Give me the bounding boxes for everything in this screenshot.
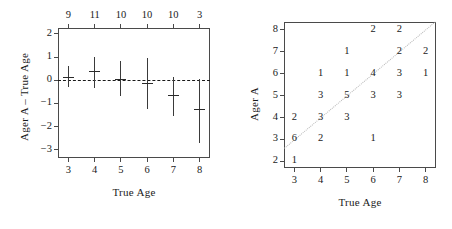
y-tick-label: 6 bbox=[260, 67, 278, 78]
figure-container: 9111010103 345678 210−1−2−3 True Age Age… bbox=[0, 0, 452, 229]
count-cell: 1 bbox=[363, 132, 383, 143]
x-tick-mark bbox=[68, 158, 69, 162]
x-tick-label: 8 bbox=[416, 174, 436, 185]
y-tick-label: −2 bbox=[32, 120, 52, 131]
x-tick-label: 7 bbox=[163, 164, 183, 175]
top-count-label: 3 bbox=[190, 9, 210, 20]
error-bar-mean-marker bbox=[63, 77, 74, 78]
error-bar-mean-marker bbox=[115, 79, 126, 80]
x-tick-mark bbox=[94, 158, 95, 162]
count-cell: 1 bbox=[416, 67, 436, 78]
x-tick-label: 5 bbox=[337, 174, 357, 185]
x-tick-label: 6 bbox=[363, 174, 383, 185]
top-tick-mark bbox=[199, 24, 200, 28]
count-cell: 2 bbox=[311, 132, 331, 143]
y-tick-mark bbox=[280, 29, 284, 30]
top-tick-mark bbox=[173, 24, 174, 28]
panel-left: 9111010103 345678 210−1−2−3 True Age Age… bbox=[0, 0, 226, 229]
x-tick-label: 4 bbox=[311, 174, 331, 185]
count-cell: 2 bbox=[284, 111, 304, 122]
top-count-label: 9 bbox=[58, 9, 78, 20]
top-count-label: 11 bbox=[85, 9, 105, 20]
y-tick-mark bbox=[280, 139, 284, 140]
count-cell: 1 bbox=[337, 45, 357, 56]
y-tick-label: 3 bbox=[260, 132, 278, 143]
right-plot-area bbox=[284, 22, 436, 168]
right-y-axis-title: Ager A bbox=[248, 87, 260, 121]
error-bar-whisker bbox=[94, 57, 95, 88]
left-y-axis-title: Ager A – True Age bbox=[18, 53, 30, 141]
y-tick-mark bbox=[280, 51, 284, 52]
top-tick-mark bbox=[94, 24, 95, 28]
zero-reference-line bbox=[58, 80, 210, 81]
top-tick-mark bbox=[68, 24, 69, 28]
error-bar-mean-marker bbox=[142, 83, 153, 84]
left-x-axis-title: True Age bbox=[106, 186, 162, 198]
y-tick-mark bbox=[54, 103, 58, 104]
error-bar-mean-marker bbox=[194, 109, 205, 110]
right-x-axis-title: True Age bbox=[332, 196, 388, 208]
count-cell: 2 bbox=[389, 45, 409, 56]
y-tick-label: 5 bbox=[260, 89, 278, 100]
count-cell: 5 bbox=[337, 89, 357, 100]
y-tick-label: 0 bbox=[32, 73, 52, 84]
count-cell: 3 bbox=[363, 89, 383, 100]
x-tick-mark bbox=[147, 158, 148, 162]
y-tick-mark bbox=[54, 57, 58, 58]
x-tick-label: 3 bbox=[58, 164, 78, 175]
x-tick-mark bbox=[346, 168, 347, 172]
y-tick-label: −3 bbox=[32, 143, 52, 154]
y-tick-label: −1 bbox=[32, 96, 52, 107]
x-tick-label: 5 bbox=[111, 164, 131, 175]
y-tick-mark bbox=[280, 117, 284, 118]
top-tick-mark bbox=[147, 24, 148, 28]
y-tick-label: 2 bbox=[32, 27, 52, 38]
count-cell: 1 bbox=[284, 154, 304, 165]
error-bar-mean-marker bbox=[168, 95, 179, 96]
y-tick-mark bbox=[280, 161, 284, 162]
count-cell: 1 bbox=[337, 67, 357, 78]
left-plot-area bbox=[58, 28, 210, 158]
panel-right: 221221143135332336211 345678 8765432 Tru… bbox=[226, 0, 452, 229]
x-tick-mark bbox=[120, 158, 121, 162]
y-tick-mark bbox=[280, 73, 284, 74]
count-cell: 3 bbox=[389, 89, 409, 100]
x-tick-label: 7 bbox=[389, 174, 409, 185]
y-tick-mark bbox=[280, 95, 284, 96]
x-tick-label: 3 bbox=[284, 174, 304, 185]
count-cell: 6 bbox=[284, 132, 304, 143]
x-tick-mark bbox=[294, 168, 295, 172]
y-tick-label: 7 bbox=[260, 45, 278, 56]
count-cell: 3 bbox=[389, 67, 409, 78]
error-bar-whisker bbox=[173, 77, 174, 116]
y-tick-label: 1 bbox=[32, 50, 52, 61]
error-bar-mean-marker bbox=[89, 71, 100, 72]
y-tick-mark bbox=[54, 149, 58, 150]
y-tick-label: 2 bbox=[260, 154, 278, 165]
error-bar-whisker bbox=[199, 79, 200, 143]
count-cell: 3 bbox=[337, 111, 357, 122]
x-tick-mark bbox=[425, 168, 426, 172]
y-tick-label: 8 bbox=[260, 23, 278, 34]
count-cell: 2 bbox=[363, 23, 383, 34]
x-tick-mark bbox=[173, 158, 174, 162]
count-cell: 4 bbox=[363, 67, 383, 78]
x-tick-label: 6 bbox=[137, 164, 157, 175]
top-count-label: 10 bbox=[111, 9, 131, 20]
x-tick-mark bbox=[320, 168, 321, 172]
count-cell: 1 bbox=[311, 67, 331, 78]
x-tick-label: 8 bbox=[190, 164, 210, 175]
y-tick-mark bbox=[54, 33, 58, 34]
top-count-label: 10 bbox=[137, 9, 157, 20]
y-tick-mark bbox=[54, 80, 58, 81]
count-cell: 2 bbox=[416, 45, 436, 56]
count-cell: 2 bbox=[389, 23, 409, 34]
y-tick-mark bbox=[54, 126, 58, 127]
x-tick-mark bbox=[199, 158, 200, 162]
x-tick-mark bbox=[399, 168, 400, 172]
top-count-label: 10 bbox=[163, 9, 183, 20]
count-cell: 3 bbox=[311, 111, 331, 122]
y-tick-label: 4 bbox=[260, 111, 278, 122]
top-tick-mark bbox=[120, 24, 121, 28]
x-tick-mark bbox=[373, 168, 374, 172]
